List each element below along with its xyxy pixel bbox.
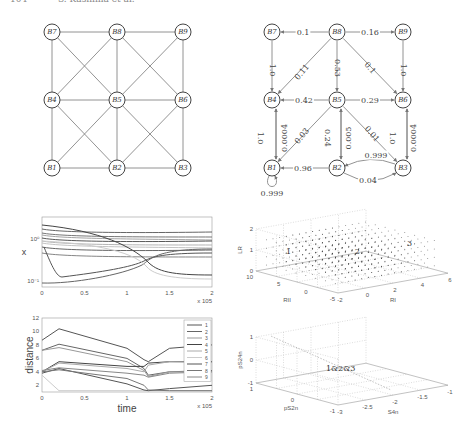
svg-text:B8: B8 — [331, 28, 342, 36]
directed-edge — [345, 159, 395, 166]
svg-text:2: 2 — [210, 395, 214, 401]
graph-node: B4 — [44, 92, 60, 108]
graph-node: B3 — [175, 160, 191, 176]
graph-node: B1 — [44, 160, 60, 176]
cluster-label: 3 — [407, 239, 412, 248]
edge-weight: 0.1 — [362, 60, 377, 76]
svg-text:B9: B9 — [177, 28, 188, 36]
graph-node: B1 — [264, 160, 280, 176]
y-axis-label: x — [22, 247, 27, 257]
svg-text:B7: B7 — [266, 28, 277, 36]
svg-text:6: 6 — [36, 355, 40, 361]
svg-text:B2: B2 — [331, 164, 342, 172]
edge-weight: 0.999 — [365, 151, 388, 160]
cluster-label: 2 — [355, 247, 360, 256]
edge-weight: 0.42 — [295, 96, 313, 105]
edge-weight: 1.0 — [399, 64, 408, 77]
graph-node: B5 — [329, 92, 345, 108]
edge-weight: 0.53 — [333, 59, 342, 77]
svg-text:0: 0 — [40, 290, 44, 296]
svg-text:5: 5 — [205, 348, 208, 354]
edge-weight: 0.0004 — [409, 124, 418, 152]
svg-text:B4: B4 — [266, 96, 277, 104]
directed-graph: 0.10.161.00.110.530.11.00.420.291.00.000… — [240, 0, 469, 205]
svg-text:2: 2 — [210, 290, 214, 296]
edge-weight: 1.0 — [268, 64, 277, 77]
graph-node: B6 — [175, 92, 191, 108]
svg-text:4: 4 — [205, 342, 208, 348]
graph-node: B7 — [44, 24, 60, 40]
svg-text:B3: B3 — [397, 164, 408, 172]
svg-text:B6: B6 — [397, 96, 408, 104]
svg-text:2: 2 — [205, 329, 208, 335]
svg-text:0: 0 — [304, 289, 308, 295]
graph-node: B2 — [329, 160, 345, 176]
y-axis-label: pS2n — [284, 405, 298, 411]
svg-text:1: 1 — [250, 247, 254, 253]
x-log-chart: 00.511.52x 10510⁰10⁻¹ x — [0, 205, 240, 310]
graph-node: B7 — [264, 24, 280, 40]
z-axis-label: LR — [237, 245, 243, 253]
svg-text:10⁰: 10⁰ — [30, 236, 40, 242]
graph-node: B2 — [109, 160, 125, 176]
svg-text:B1: B1 — [266, 164, 277, 172]
svg-text:10: 10 — [32, 328, 39, 334]
graph-node: B3 — [395, 160, 411, 176]
svg-text:-1: -1 — [330, 408, 336, 414]
edge-weight: 0.005 — [344, 127, 353, 150]
svg-text:10⁻¹: 10⁻¹ — [27, 278, 39, 284]
svg-text:12: 12 — [32, 315, 39, 321]
edge-weight: 0.96 — [294, 164, 312, 173]
svg-text:-2.5: -2.5 — [362, 404, 373, 410]
svg-text:-3: -3 — [337, 409, 343, 415]
edge-weight: 0.11 — [293, 62, 311, 81]
edge-weight: 0.24 — [323, 129, 332, 147]
x-axis-label: RI — [390, 297, 396, 303]
svg-text:4: 4 — [421, 282, 425, 288]
graph-node: B9 — [395, 24, 411, 40]
svg-text:0: 0 — [40, 395, 44, 401]
svg-text:B5: B5 — [331, 96, 342, 104]
svg-text:2: 2 — [250, 226, 254, 232]
svg-text:B7: B7 — [46, 28, 57, 36]
svg-text:10: 10 — [246, 274, 253, 280]
svg-text:0: 0 — [250, 268, 254, 274]
x-axis-label: time — [118, 403, 137, 414]
graph-node: B8 — [329, 24, 345, 40]
svg-text:B8: B8 — [111, 28, 122, 36]
y-axis-label: distance — [24, 336, 35, 374]
3d-scatter-ri-rii-lr: 123-20246-50510012RIRIILR — [240, 205, 469, 310]
svg-text:x 105: x 105 — [197, 298, 212, 304]
self-loop-edge — [267, 176, 276, 187]
svg-text:-1: -1 — [248, 380, 254, 386]
svg-text:1: 1 — [125, 395, 129, 401]
svg-text:B5: B5 — [111, 96, 122, 104]
graph-node: B4 — [264, 92, 280, 108]
graph-node: B6 — [395, 92, 411, 108]
svg-text:1.5: 1.5 — [165, 395, 174, 401]
edge-weight: 0.16 — [361, 28, 379, 37]
svg-text:1: 1 — [250, 386, 254, 392]
svg-text:0: 0 — [250, 357, 254, 363]
cluster-label: 1 — [286, 247, 291, 256]
x-axis-label: S4n — [388, 409, 399, 415]
svg-text:0.5: 0.5 — [80, 395, 89, 401]
svg-text:0: 0 — [291, 397, 295, 403]
svg-text:2: 2 — [393, 287, 397, 293]
svg-text:B4: B4 — [46, 96, 57, 104]
distance-chart: 00.511.52x 10524681012 123456789 time di… — [0, 310, 240, 432]
y-axis-label: RII — [283, 297, 291, 303]
svg-text:8: 8 — [36, 342, 40, 348]
edge-weight: 1.0 — [256, 132, 265, 145]
svg-text:7: 7 — [205, 361, 208, 367]
svg-text:B9: B9 — [397, 28, 408, 36]
svg-text:-1: -1 — [447, 389, 453, 395]
edge-weight: 0.03 — [293, 126, 311, 145]
edge-weight: 0.1 — [297, 28, 310, 37]
edge-weight: 0.29 — [361, 96, 379, 105]
svg-text:8: 8 — [205, 368, 208, 374]
svg-text:-1.5: -1.5 — [417, 394, 428, 400]
svg-text:6: 6 — [205, 355, 208, 361]
graph-node: B5 — [109, 92, 125, 108]
edge-weight: 0.04 — [359, 176, 377, 185]
